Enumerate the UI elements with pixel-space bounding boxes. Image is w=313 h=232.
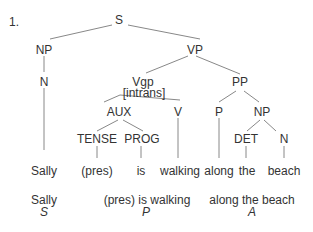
example-number: 1. <box>9 15 19 29</box>
node-NP: NP <box>36 43 53 57</box>
leaf-pres: (pres) <box>81 164 112 178</box>
node-AUX: AUX <box>107 105 132 119</box>
node-PP: PP <box>232 75 248 89</box>
leaf-the: the <box>239 164 256 178</box>
leaf-is: is <box>137 164 146 178</box>
node-S: S <box>115 13 123 27</box>
node-N: N <box>40 75 49 89</box>
node-DET: DET <box>234 132 259 146</box>
node-VP: VP <box>187 43 203 57</box>
node-PROG: PROG <box>124 132 159 146</box>
node-P: P <box>215 105 223 119</box>
node-N2: N <box>280 132 289 146</box>
node-TENSE: TENSE <box>77 132 117 146</box>
leaf-along: along <box>204 164 233 178</box>
node-NP2: NP <box>254 105 271 119</box>
node-V: V <box>174 105 182 119</box>
syntax-tree: 1. S NP N VP Vgp [intrans] PP AUX V P NP… <box>0 0 313 232</box>
leaf-beach: beach <box>268 164 301 178</box>
function-role-predicator: P <box>142 205 150 219</box>
leaf-sally: Sally <box>31 164 57 178</box>
function-role-subject: S <box>40 205 48 219</box>
node-Vgp-feature: [intrans] <box>123 86 166 100</box>
function-role-adjunct: A <box>247 205 256 219</box>
leaf-walking: walking <box>159 164 200 178</box>
